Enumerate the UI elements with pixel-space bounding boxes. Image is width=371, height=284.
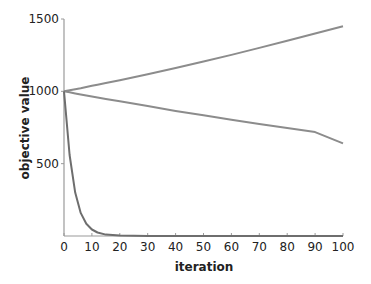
y-ticks: 50010001500 — [28, 12, 64, 171]
data-series — [64, 26, 343, 236]
x-tick-label: 20 — [112, 240, 127, 254]
line-chart: 50010001500 0102030405060708090100 itera… — [0, 0, 371, 284]
series-line-slow-decrease — [64, 91, 343, 143]
x-tick-label: 80 — [280, 240, 295, 254]
axes — [64, 19, 343, 236]
x-tick-label: 50 — [196, 240, 211, 254]
x-tick-label: 60 — [224, 240, 239, 254]
series-line-fast-decrease — [64, 91, 343, 236]
x-tick-label: 0 — [60, 240, 68, 254]
x-tick-label: 70 — [252, 240, 267, 254]
y-axis-title: objective value — [18, 77, 32, 180]
series-line-increasing — [64, 26, 343, 91]
x-tick-label: 90 — [307, 240, 322, 254]
y-tick-label: 500 — [36, 157, 59, 171]
x-tick-label: 10 — [84, 240, 99, 254]
x-tick-label: 100 — [332, 240, 355, 254]
x-tick-label: 30 — [140, 240, 155, 254]
y-tick-label: 1000 — [28, 84, 59, 98]
y-tick-label: 1500 — [28, 12, 59, 26]
x-tick-label: 40 — [168, 240, 183, 254]
x-axis-title: iteration — [175, 260, 234, 274]
